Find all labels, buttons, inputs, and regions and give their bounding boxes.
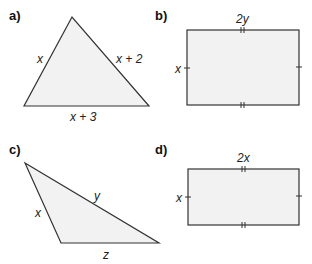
side-label-d-left: x [175,191,183,205]
rectangle-b [187,30,299,105]
side-label-a-bottom: x + 3 [69,110,97,124]
diagram-canvas: a) x x + 2 x + 3 b) 2y x c) x y z d) 2x … [0,0,312,264]
rectangle-d [188,169,299,225]
side-label-c-bottom: z [102,248,109,262]
triangle-c [25,163,159,243]
part-label-c: c) [9,142,21,157]
part-label-a: a) [9,8,21,23]
side-label-b-left: x [174,62,182,76]
side-label-b-top: 2y [235,12,250,26]
side-label-a-right: x + 2 [115,52,143,66]
side-label-c-hypotenuse: y [93,189,101,203]
side-label-a-left: x [36,52,44,66]
figure-d: d) 2x x [155,142,302,228]
figure-c: c) x y z [9,142,159,262]
part-label-d: d) [155,142,167,157]
part-label-b: b) [155,8,167,23]
figure-a: a) x x + 2 x + 3 [9,8,149,124]
figure-b: b) 2y x [155,8,302,108]
side-label-c-left: x [34,206,42,220]
side-label-d-top: 2x [236,151,251,165]
